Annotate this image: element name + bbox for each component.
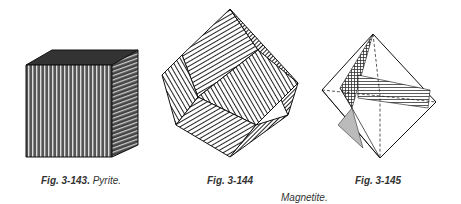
figure-label: Fig. 3-144 [207, 175, 253, 186]
caption-fig-3-144: Fig. 3-144 [207, 175, 253, 186]
shared-caption-magnetite: Magnetite. [281, 192, 328, 203]
figure-label: Fig. 3-145 [355, 175, 401, 186]
caption-fig-3-145: Fig. 3-145 [355, 175, 401, 186]
pyrite-cube-illustration [20, 45, 145, 165]
magnetite-octahedron-illustration [318, 30, 443, 160]
figure-label: Fig. 3-143. [41, 175, 90, 186]
figure-caption: Pyrite. [93, 175, 121, 186]
magnetite-dodecahedron-illustration [158, 5, 303, 160]
caption-fig-3-143: Fig. 3-143. Pyrite. [41, 175, 121, 186]
